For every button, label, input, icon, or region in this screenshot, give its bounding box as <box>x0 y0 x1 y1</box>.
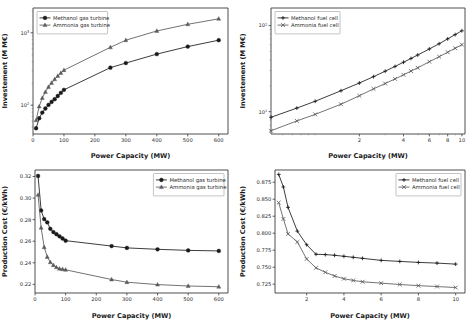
data-point <box>217 249 221 253</box>
y-tick-label: 102 <box>20 102 29 108</box>
data-point <box>43 107 47 111</box>
x-tick-label: 100 <box>59 137 69 143</box>
y-axis-ticks: 0.220.240.260.280.300.32 <box>20 173 35 287</box>
x-tick-label: 600 <box>214 296 224 302</box>
x-axis-ticks: 0100200300400500600 <box>31 134 223 143</box>
y-tick-label: 0.24 <box>20 260 32 266</box>
legend-label: Methanol gas turbine <box>169 177 225 184</box>
legend[interactable]: Methanol gas turbineAmmonia gas turbine <box>153 174 226 196</box>
data-point <box>47 103 51 107</box>
data-point <box>48 227 52 231</box>
x-axis-label: Power Capacity (MW) <box>92 312 172 320</box>
chart-top-right: 246810101102Power Capacity (MW)Investeme… <box>238 0 475 161</box>
chart-bottom-right: 2468100.7250.7500.7750.8000.8250.8500.87… <box>238 160 475 321</box>
legend-label: Methanol fuel cell <box>291 15 338 21</box>
x-axis-label: Power Capacity (MW) <box>330 312 410 320</box>
data-point <box>108 66 112 70</box>
x-tick-label: 2 <box>358 137 361 143</box>
x-tick-label: 6 <box>380 296 383 302</box>
y-axis-ticks: 0.7250.7500.7750.8000.8250.8500.875 <box>257 179 275 287</box>
legend[interactable]: Methanol fuel cellAmmonia fuel cell <box>275 12 340 34</box>
data-point <box>110 244 114 248</box>
y-tick-label: 0.825 <box>257 213 272 219</box>
data-point <box>124 61 128 65</box>
y-tick-label: 0.22 <box>20 281 32 287</box>
data-point <box>56 94 60 98</box>
x-tick-label: 0 <box>33 296 36 302</box>
y-axis-ticks: 101102 <box>258 22 271 130</box>
legend-label: Ammonia fuel cell <box>412 184 460 190</box>
legend-label: Methanol gas turbine <box>53 15 109 22</box>
y-axis-label: Production Cost (€/kWh) <box>1 186 9 277</box>
x-tick-label: 4 <box>342 296 346 302</box>
data-point <box>37 116 41 120</box>
x-tick-label: 8 <box>417 296 420 302</box>
x-tick-label: 6 <box>428 137 431 143</box>
y-tick-label: 0.800 <box>257 230 272 236</box>
y-tick-label: 0.850 <box>257 196 272 202</box>
y-tick-label: 102 <box>258 22 267 28</box>
chart-top-left: 0100200300400500600102103Power Capacity … <box>0 0 238 161</box>
y-axis-label: Production Cost (€/kWh) <box>239 186 247 277</box>
x-tick-label: 10 <box>452 296 459 302</box>
data-point <box>155 52 159 56</box>
data-point <box>53 97 57 101</box>
x-axis-ticks: 246810 <box>305 293 459 302</box>
legend[interactable]: Methanol fuel cellAmmonia fuel cell <box>396 174 461 196</box>
subplot-top-left: 0100200300400500600102103Power Capacity … <box>0 0 238 161</box>
x-axis-ticks: 246810 <box>283 134 466 143</box>
x-tick-label: 2 <box>305 296 308 302</box>
y-tick-label: 0.750 <box>257 264 272 270</box>
x-axis-ticks: 0100200300400500600 <box>33 293 223 302</box>
y-tick-label: 0.26 <box>20 238 32 244</box>
subplot-bottom-right: 2468100.7250.7500.7750.8000.8250.8500.87… <box>238 160 475 321</box>
y-tick-label: 0.30 <box>20 195 32 201</box>
data-point <box>50 100 54 104</box>
legend-marker <box>43 16 47 20</box>
data-point <box>186 248 190 252</box>
y-tick-label: 103 <box>20 30 29 36</box>
subplot-bottom-left: 01002003004005006000.220.240.260.280.300… <box>0 160 238 321</box>
x-axis-label: Power Capacity (MW) <box>91 152 171 160</box>
y-tick-label: 0.725 <box>257 281 272 287</box>
data-point <box>156 247 160 251</box>
data-point <box>64 239 68 243</box>
legend-marker <box>160 178 164 182</box>
y-tick-label: 101 <box>258 109 267 115</box>
legend[interactable]: Methanol gas turbineAmmonia gas turbine <box>37 12 110 34</box>
y-axis-ticks: 102103 <box>20 11 33 127</box>
x-tick-label: 10 <box>459 137 466 143</box>
data-point <box>186 45 190 49</box>
data-point <box>36 174 40 178</box>
x-tick-label: 600 <box>214 137 224 143</box>
data-point <box>125 246 129 250</box>
y-tick-label: 0.775 <box>257 247 272 253</box>
x-tick-label: 300 <box>122 296 132 302</box>
y-tick-label: 0.875 <box>257 179 272 185</box>
legend-label: Ammonia gas turbine <box>169 184 226 191</box>
data-point <box>217 38 221 42</box>
x-tick-label: 400 <box>153 296 163 302</box>
legend-label: Ammonia gas turbine <box>53 22 110 29</box>
legend-label: Ammonia fuel cell <box>291 22 339 28</box>
x-tick-label: 500 <box>183 296 193 302</box>
data-point <box>62 88 66 92</box>
y-axis-label: Investement (M M€) <box>1 34 9 109</box>
x-tick-label: 0 <box>31 137 34 143</box>
x-tick-label: 100 <box>61 296 71 302</box>
data-point <box>45 220 49 224</box>
x-tick-label: 200 <box>91 296 101 302</box>
y-axis-label: Investement (M M€) <box>239 34 247 109</box>
data-point <box>34 126 38 130</box>
y-tick-label: 0.28 <box>20 217 32 223</box>
data-point <box>59 91 63 95</box>
figure-canvas: 0100200300400500600102103Power Capacity … <box>0 0 475 321</box>
x-tick-label: 200 <box>90 137 100 143</box>
x-tick-label: 8 <box>446 137 449 143</box>
x-tick-label: 4 <box>402 137 406 143</box>
x-tick-label: 400 <box>152 137 162 143</box>
x-tick-label: 300 <box>121 137 131 143</box>
legend-label: Methanol fuel cell <box>412 177 459 183</box>
y-tick-label: 0.32 <box>20 173 32 179</box>
data-point <box>42 217 46 221</box>
